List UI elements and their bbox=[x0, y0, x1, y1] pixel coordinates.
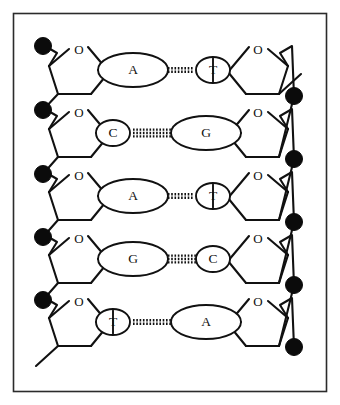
phosphate-left-2[interactable] bbox=[35, 166, 52, 183]
sugar-oxygen-label: O bbox=[253, 231, 262, 246]
phosphate-left-4[interactable] bbox=[35, 292, 52, 309]
phosphate-right-2[interactable] bbox=[286, 214, 303, 231]
base-label-a-2: A bbox=[128, 188, 138, 203]
phosphate-right-3[interactable] bbox=[286, 277, 303, 294]
dna-double-helix-svg: OOOOOOOOOO ATCGATGCTA bbox=[0, 0, 340, 405]
sugar-oxygen-label: O bbox=[253, 42, 262, 57]
phosphate-left-1[interactable] bbox=[35, 102, 52, 119]
phosphate-right-4[interactable] bbox=[286, 339, 303, 356]
dna-diagram-figure: OOOOOOOOOO ATCGATGCTA bbox=[0, 0, 340, 405]
phosphate-left-0[interactable] bbox=[35, 38, 52, 55]
sugar-oxygen-label: O bbox=[253, 294, 262, 309]
phosphate-right-0[interactable] bbox=[286, 88, 303, 105]
base-label-t-0: T bbox=[209, 62, 218, 77]
phosphate-left-3[interactable] bbox=[35, 229, 52, 246]
base-label-a-0: A bbox=[128, 62, 138, 77]
sugar-oxygen-label: O bbox=[253, 105, 262, 120]
sugar-oxygen-label: O bbox=[74, 294, 83, 309]
sugar-oxygen-label: O bbox=[74, 168, 83, 183]
sugar-oxygen-label: O bbox=[74, 231, 83, 246]
base-label-t-2: T bbox=[209, 188, 218, 203]
phosphate-right-1[interactable] bbox=[286, 151, 303, 168]
base-label-g-3: G bbox=[128, 251, 138, 266]
sugar-oxygen-label: O bbox=[253, 168, 262, 183]
sugar-oxygen-label: O bbox=[74, 105, 83, 120]
base-label-t-4: T bbox=[109, 314, 118, 329]
base-label-c-3: C bbox=[208, 251, 217, 266]
figure-border bbox=[14, 14, 327, 392]
base-label-g-1: G bbox=[201, 125, 211, 140]
base-label-c-1: C bbox=[108, 125, 117, 140]
sugar-oxygen-label: O bbox=[74, 42, 83, 57]
base-label-a-4: A bbox=[201, 314, 211, 329]
